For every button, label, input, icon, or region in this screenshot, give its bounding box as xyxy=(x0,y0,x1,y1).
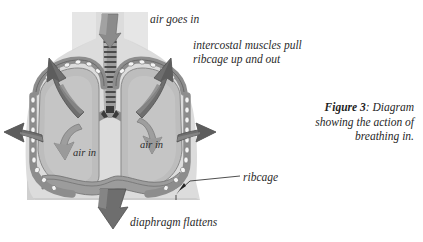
arrow-diaphragm-down xyxy=(98,189,128,229)
label-intercostal-line1: intercostal muscles pull xyxy=(193,39,302,51)
label-intercostal-muscles: intercostal muscles pullribcage up and o… xyxy=(193,39,302,66)
label-air-goes-in: air goes in xyxy=(150,13,199,27)
label-air-in-right: air in xyxy=(140,139,163,151)
left-lung xyxy=(38,68,99,188)
label-air-in-left: air in xyxy=(73,147,96,159)
figure-caption-separator: : xyxy=(366,101,370,113)
figure-caption-label: Figure 3 xyxy=(325,101,366,113)
figure-diagram-breathing-in: air goes in intercostal muscles pullribc… xyxy=(0,0,423,242)
label-intercostal-line2: ribcage up and out xyxy=(193,53,280,65)
figure-caption: Figure 3: Diagram showing the action of … xyxy=(286,100,414,144)
label-ribcage: ribcage xyxy=(243,171,278,185)
label-diaphragm-flattens: diaphragm flattens xyxy=(130,216,217,230)
